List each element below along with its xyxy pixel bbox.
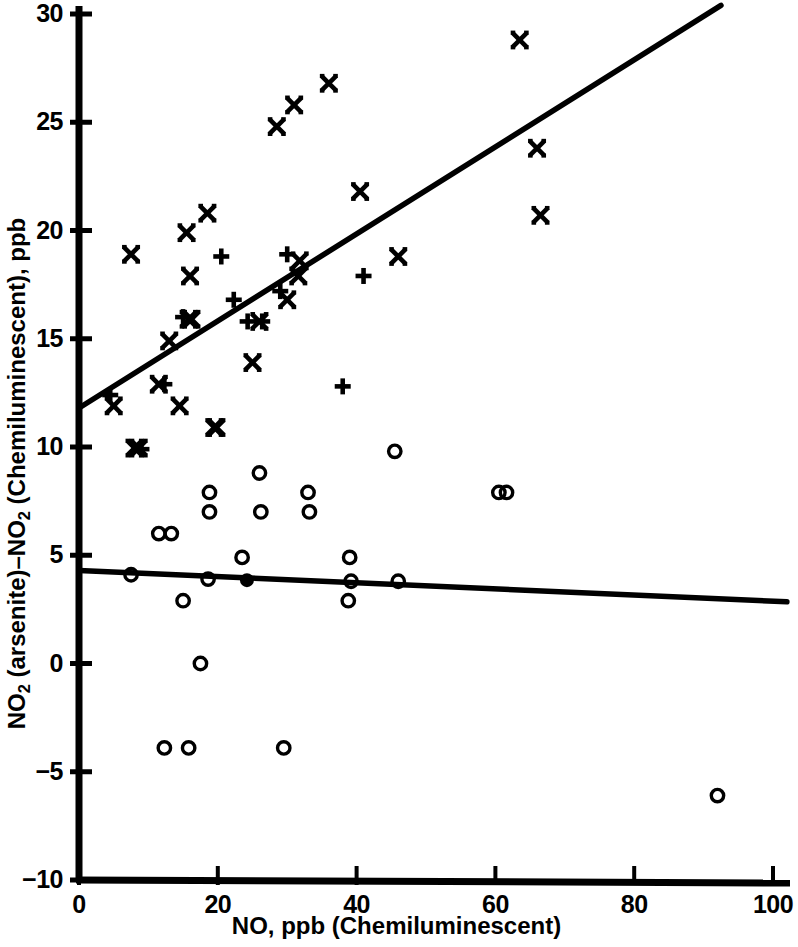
data-point-open-circle xyxy=(278,742,290,754)
data-point-cross-x xyxy=(160,334,178,349)
data-point-plus xyxy=(335,378,351,394)
data-point-cross-x xyxy=(320,76,338,91)
data-point-open-circle xyxy=(711,789,723,801)
data-point-cross-x xyxy=(389,249,407,264)
y-axis-title-part-1: NO xyxy=(3,693,30,729)
x-axis-title: NO, ppb (Chemiluminescent) xyxy=(0,912,793,940)
data-point-cross-x xyxy=(122,247,140,262)
data-markers-group xyxy=(102,33,723,802)
data-point-open-circle xyxy=(203,486,215,498)
data-point-open-circle xyxy=(153,527,165,539)
data-point-plus xyxy=(213,248,229,264)
data-point-cross-x xyxy=(532,208,550,223)
data-point-open-circle xyxy=(194,657,206,669)
data-point-filled-circle xyxy=(241,574,253,586)
y-axis-title-part-3: (Chemiluminescent), ppb xyxy=(3,218,30,511)
data-point-cross-x xyxy=(178,225,196,240)
data-point-open-circle xyxy=(255,506,267,518)
data-point-open-circle xyxy=(203,506,215,518)
data-point-open-circle xyxy=(302,486,314,498)
y-axis-title-sub-2: 2 xyxy=(15,511,33,520)
data-point-open-circle xyxy=(165,527,177,539)
axis-ticks-group xyxy=(70,14,773,885)
data-point-cross-x xyxy=(171,398,189,413)
data-point-open-circle xyxy=(343,551,355,563)
lower-regression-line xyxy=(79,570,787,601)
data-point-open-circle xyxy=(158,742,170,754)
data-point-open-circle xyxy=(177,595,189,607)
data-point-cross-x xyxy=(268,119,286,134)
data-point-plus xyxy=(356,268,372,284)
y-axis-title: NO2 (arsenite)–NO2 (Chemiluminescent), p… xyxy=(0,0,34,947)
data-point-cross-x xyxy=(285,98,303,113)
data-point-cross-x xyxy=(511,33,529,48)
data-point-open-circle xyxy=(389,445,401,457)
data-point-cross-x xyxy=(105,398,123,413)
data-point-open-circle xyxy=(303,506,315,518)
data-point-open-circle xyxy=(253,467,265,479)
data-point-cross-x xyxy=(351,184,369,199)
data-point-open-circle xyxy=(236,551,248,563)
data-point-cross-x xyxy=(198,206,216,221)
y-axis-title-part-2: (arsenite)–NO xyxy=(3,520,30,684)
data-point-open-circle xyxy=(182,742,194,754)
data-point-open-circle xyxy=(342,595,354,607)
regression-lines-group xyxy=(79,5,787,601)
data-point-cross-x xyxy=(244,355,262,370)
data-point-plus xyxy=(279,246,295,262)
data-point-cross-x xyxy=(181,269,199,284)
x-axis-line xyxy=(76,880,790,883)
y-axis-title-sub-1: 2 xyxy=(15,684,33,693)
data-point-cross-x xyxy=(528,141,546,156)
data-point-plus xyxy=(156,376,172,392)
